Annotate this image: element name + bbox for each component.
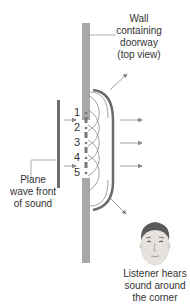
source-label-3: 3 [74,136,80,148]
diagonal-arrow-up [110,74,127,90]
diagonal-arrow-down [111,199,126,214]
source-label-5: 5 [74,166,80,178]
doorway-sources [85,112,88,175]
wavefront-label-line: wave front [6,186,60,198]
source-label-1: 1 [74,106,80,118]
source-label-4: 4 [74,151,80,163]
diffracted-wavefront-arc [93,90,113,210]
wavefront-label-line: Plane [6,174,60,186]
wall-label-line: doorway [114,37,164,49]
wavefront-label: Plane wave front of sound [6,174,60,210]
wavelets [88,92,108,206]
listener-label-line: the corner [122,292,188,304]
wall-label-line: (top view) [114,49,164,61]
source-label-2: 2 [74,121,80,133]
wall-label-line: Wall [114,13,164,25]
listener-label: Listener hears sound around the corner [122,268,188,304]
wall-label: Wall containing doorway (top view) [114,13,164,61]
listener-label-line: sound around [122,280,188,292]
wall-upper [82,23,90,120]
wall-label-line: containing [114,25,164,37]
listener-label-line: Listener hears [122,268,188,280]
listener-face-icon [140,222,171,265]
wavefront-label-line: of sound [6,198,60,210]
